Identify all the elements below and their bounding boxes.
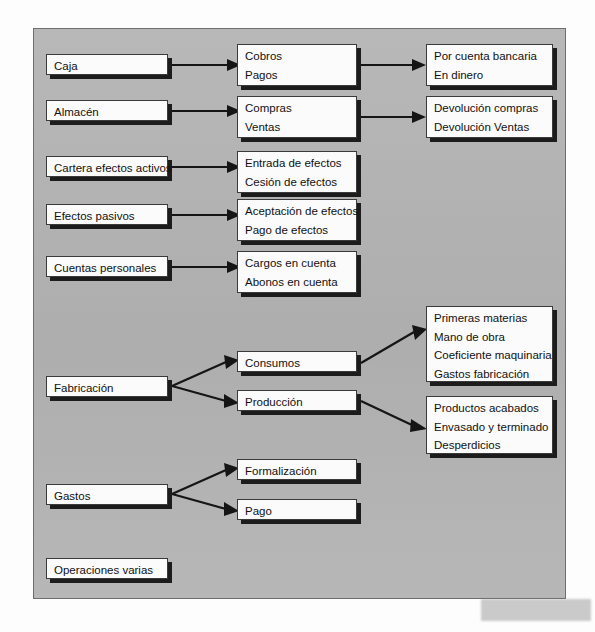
node-almacen[interactable]: Almacén — [46, 100, 168, 121]
node-cuentas-personales-line-0: Cuentas personales — [54, 259, 167, 278]
diagram-panel: Caja Almacén Cartera efectos activos Efe… — [33, 28, 566, 599]
node-devoluciones[interactable]: Devolución compras Devolución Ventas — [426, 96, 553, 138]
node-entrada-cesion-line-0: Entrada de efectos — [245, 154, 356, 173]
node-cargos-abonos-line-1: Abonos en cuenta — [245, 273, 356, 292]
node-cartera-efectos-activos[interactable]: Cartera efectos activos — [46, 156, 168, 177]
node-materias-line-1: Mano de obra — [434, 328, 552, 347]
node-cartera-line-0: Cartera efectos activos — [54, 159, 167, 178]
edge-consumos-materias — [361, 325, 427, 363]
node-aceptacion-pago-line-1: Pago de efectos — [245, 221, 356, 240]
node-productos-line-0: Productos acabados — [434, 399, 552, 418]
node-cobros-pagos-line-1: Pagos — [245, 66, 356, 85]
edge-produccion-productos — [361, 401, 427, 432]
node-primeras-materias[interactable]: Primeras materias Mano de obra Coeficien… — [426, 306, 553, 382]
edge-efectos-aceptacion — [172, 209, 241, 221]
node-consumos-line-0: Consumos — [245, 354, 356, 373]
node-cargos-abonos-cuenta[interactable]: Cargos en cuenta Abonos en cuenta — [237, 251, 357, 293]
node-bancaria-dinero-line-0: Por cuenta bancaria — [434, 47, 552, 66]
node-cobros-pagos-line-0: Cobros — [245, 47, 356, 66]
edge-cobros-bancaria — [360, 59, 426, 71]
node-pago[interactable]: Pago — [237, 499, 357, 520]
node-materias-line-3: Gastos fabricación — [434, 365, 552, 384]
node-cobros-pagos[interactable]: Cobros Pagos — [237, 44, 357, 86]
node-efectos-pasivos[interactable]: Efectos pasivos — [46, 204, 168, 225]
diagram-page: Caja Almacén Cartera efectos activos Efe… — [0, 0, 595, 632]
node-caja-line-0: Caja — [54, 57, 167, 76]
node-aceptacion-pago-efectos[interactable]: Aceptación de efectos Pago de efectos — [237, 199, 357, 241]
node-consumos[interactable]: Consumos — [237, 351, 357, 372]
edge-compras-devoluciones — [360, 111, 426, 123]
node-fabricacion-line-0: Fabricación — [54, 379, 167, 398]
watermark — [481, 599, 591, 621]
node-formalizacion-line-0: Formalización — [245, 462, 356, 481]
node-produccion-line-0: Producción — [245, 393, 356, 412]
node-almacen-line-0: Almacén — [54, 103, 167, 122]
node-operaciones-varias-line-0: Operaciones varias — [54, 561, 167, 580]
node-operaciones-varias[interactable]: Operaciones varias — [46, 558, 168, 579]
node-materias-line-0: Primeras materias — [434, 309, 552, 328]
edge-almacen-compras — [172, 105, 241, 117]
node-compras-ventas-line-1: Ventas — [245, 118, 356, 137]
node-productos-line-1: Envasado y terminado — [434, 418, 552, 437]
edge-caja-cobros — [172, 59, 241, 71]
node-bancaria-dinero-line-1: En dinero — [434, 66, 552, 85]
node-por-cuenta-bancaria-en-dinero[interactable]: Por cuenta bancaria En dinero — [426, 44, 553, 86]
node-materias-line-2: Coeficiente maquinaria — [434, 346, 552, 365]
node-productos-line-2: Desperdicios — [434, 436, 552, 455]
node-devoluciones-line-0: Devolución compras — [434, 99, 552, 118]
edge-fabricacion-produccion — [172, 386, 239, 408]
node-entrada-cesion-efectos[interactable]: Entrada de efectos Cesión de efectos — [237, 151, 357, 193]
node-cargos-abonos-line-0: Cargos en cuenta — [245, 254, 356, 273]
edge-gastos-pago — [172, 494, 239, 516]
node-gastos-line-0: Gastos — [54, 487, 167, 506]
node-cuentas-personales[interactable]: Cuentas personales — [46, 256, 168, 277]
node-aceptacion-pago-line-0: Aceptación de efectos — [245, 202, 356, 221]
edge-cuentas-cargos — [172, 261, 241, 273]
edge-gastos-formalizacion — [172, 463, 239, 494]
node-fabricacion[interactable]: Fabricación — [46, 376, 168, 397]
node-compras-ventas[interactable]: Compras Ventas — [237, 96, 357, 138]
node-entrada-cesion-line-1: Cesión de efectos — [245, 173, 356, 192]
node-caja[interactable]: Caja — [46, 54, 168, 75]
node-formalizacion[interactable]: Formalización — [237, 459, 357, 480]
node-produccion[interactable]: Producción — [237, 390, 357, 411]
edge-cartera-entrada — [172, 161, 241, 173]
node-devoluciones-line-1: Devolución Ventas — [434, 118, 552, 137]
node-gastos[interactable]: Gastos — [46, 484, 168, 505]
node-productos-acabados[interactable]: Productos acabados Envasado y terminado … — [426, 396, 553, 454]
node-compras-ventas-line-0: Compras — [245, 99, 356, 118]
node-efectos-pasivos-line-0: Efectos pasivos — [54, 207, 167, 226]
node-pago-line-0: Pago — [245, 502, 356, 521]
edge-fabricacion-consumos — [172, 355, 239, 386]
